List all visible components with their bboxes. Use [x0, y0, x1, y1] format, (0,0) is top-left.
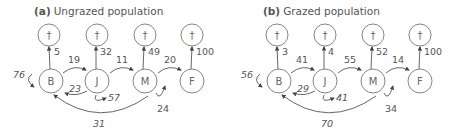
- svg-text:F: F: [417, 76, 423, 87]
- death-node-b: †: [38, 24, 60, 46]
- death-node-b: †: [266, 24, 288, 46]
- figure: (a)Ungrazed population † † † † B J M F 5…: [0, 0, 453, 136]
- rate-m-to-b: 31: [93, 118, 105, 129]
- panel-letter: (b): [263, 5, 280, 17]
- death-rate-j: 4: [328, 46, 334, 57]
- arrow-b-to-j: [291, 68, 314, 73]
- arrow-m-to-f: [386, 68, 409, 73]
- death-arrow-f: [191, 47, 192, 69]
- arrow-j-to-m: [110, 68, 133, 73]
- svg-text:M: M: [141, 76, 150, 87]
- svg-text:B: B: [276, 76, 283, 87]
- dagger-icon: †: [275, 30, 280, 41]
- rate-j-to-m: 55: [344, 54, 356, 65]
- svg-text:J: J: [95, 76, 99, 87]
- node-m: M: [361, 69, 385, 93]
- death-node-m: †: [134, 24, 156, 46]
- loop-rate-j: 41: [336, 92, 348, 103]
- loop-rate-b: 56: [241, 69, 253, 80]
- svg-text:J: J: [323, 76, 327, 87]
- loop-j: [323, 95, 334, 100]
- loop-m: [384, 86, 393, 96]
- death-rate-j: 32: [100, 46, 112, 57]
- dagger-icon: †: [190, 30, 195, 41]
- svg-text:M: M: [369, 76, 378, 87]
- rate-m-to-f: 20: [164, 54, 176, 65]
- loop-rate-b: 76: [13, 69, 25, 80]
- dagger-icon: †: [143, 30, 148, 41]
- svg-text:B: B: [48, 76, 55, 87]
- arrow-m-to-b: [54, 95, 148, 113]
- rate-m-to-f: 14: [392, 54, 404, 65]
- panel-title: Ungrazed population: [54, 5, 164, 17]
- death-rate-m: 52: [376, 46, 388, 57]
- node-b: B: [39, 69, 63, 93]
- death-arrow-b: [277, 47, 278, 69]
- rate-b-to-j: 19: [68, 54, 80, 65]
- panel-title: Grazed population: [283, 5, 380, 17]
- node-j: J: [313, 69, 337, 93]
- node-f: F: [180, 69, 204, 93]
- death-arrow-f: [419, 47, 420, 69]
- death-arrow-m: [143, 47, 144, 69]
- rate-b-to-j: 41: [296, 54, 308, 65]
- death-node-j: †: [314, 24, 336, 46]
- node-j: J: [85, 69, 109, 93]
- svg-text:F: F: [189, 76, 195, 87]
- svg-text:(a)Ungrazed population: (a)Ungrazed population: [34, 5, 163, 17]
- death-node-m: †: [362, 24, 384, 46]
- loop-rate-j: 57: [108, 92, 120, 103]
- death-rate-b: 3: [282, 46, 288, 57]
- arrow-j-to-m: [338, 68, 361, 73]
- arrow-b-to-j: [63, 68, 86, 73]
- panel-b: (b)Grazed population † † † † B J M F 3 4…: [241, 5, 442, 129]
- dagger-icon: †: [371, 30, 376, 41]
- rate-m-to-b: 70: [321, 118, 333, 129]
- loop-m: [156, 86, 165, 96]
- arrow-m-to-b: [282, 95, 376, 113]
- death-arrow-m: [371, 47, 372, 69]
- panel-letter: (a): [34, 5, 51, 17]
- loop-rate-m: 34: [385, 103, 397, 114]
- rate-j-to-b: 23: [69, 83, 81, 94]
- death-node-j: †: [86, 24, 108, 46]
- panel-a: (a)Ungrazed population † † † † B J M F 5…: [13, 5, 214, 129]
- dagger-icon: †: [47, 30, 52, 41]
- node-f: F: [408, 69, 432, 93]
- node-b: B: [267, 69, 291, 93]
- death-arrow-b: [49, 47, 50, 69]
- loop-j: [95, 95, 106, 100]
- rate-j-to-b: 29: [297, 83, 309, 94]
- death-node-f: †: [409, 24, 431, 46]
- svg-text:(b)Grazed population: (b)Grazed population: [263, 5, 380, 17]
- loop-rate-m: 24: [157, 103, 169, 114]
- rate-j-to-m: 11: [116, 54, 128, 65]
- arrow-m-to-f: [158, 68, 181, 73]
- node-m: M: [133, 69, 157, 93]
- death-rate-f: 100: [424, 46, 442, 57]
- dagger-icon: †: [323, 30, 328, 41]
- death-rate-b: 5: [54, 46, 60, 57]
- loop-b: [256, 74, 262, 87]
- death-rate-f: 100: [196, 46, 214, 57]
- dagger-icon: †: [95, 30, 100, 41]
- death-rate-m: 49: [148, 46, 160, 57]
- death-node-f: †: [181, 24, 203, 46]
- loop-b: [28, 74, 34, 87]
- dagger-icon: †: [418, 30, 423, 41]
